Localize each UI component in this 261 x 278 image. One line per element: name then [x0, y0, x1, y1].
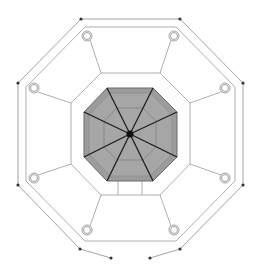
center-node-icon: [127, 131, 134, 138]
entrance-stub: [118, 181, 142, 195]
floor-plan-diagram: [0, 0, 261, 278]
central-roof: [84, 88, 177, 181]
